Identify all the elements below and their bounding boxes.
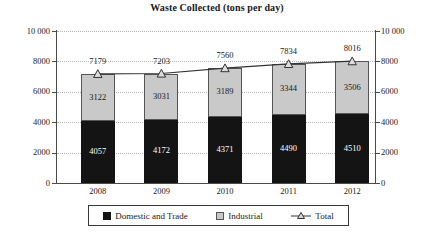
y-axis-tick-label-left: 2000 — [0, 148, 50, 157]
data-label-domestic-and-trade: 4057 — [81, 147, 115, 156]
data-label-domestic-and-trade: 4172 — [144, 146, 178, 155]
line-triangle-icon — [291, 212, 311, 220]
data-label-domestic-and-trade: 4510 — [335, 144, 369, 153]
axis-tick — [376, 61, 380, 62]
gridline — [57, 31, 375, 32]
y-axis-tick-label-right: 2000 — [381, 148, 398, 157]
legend-item-domestic-and-trade[interactable]: Domestic and Trade — [103, 211, 188, 221]
y-axis-tick-label-right: 6000 — [381, 87, 398, 96]
y-axis-tick-label-right: 8000 — [381, 57, 398, 66]
legend-item-total[interactable]: Total — [291, 211, 333, 221]
data-label-industrial: 3506 — [335, 83, 369, 92]
data-label-industrial: 3344 — [272, 84, 306, 93]
axis-bottom — [56, 183, 376, 184]
data-label-industrial: 3189 — [208, 87, 242, 96]
x-axis-tick-label: 2011 — [259, 187, 319, 196]
axis-tick — [376, 153, 380, 154]
data-label-domestic-and-trade: 4371 — [208, 145, 242, 154]
legend-label-total: Total — [315, 211, 333, 221]
y-axis-tick-label-left: 4000 — [0, 118, 50, 127]
x-axis-tick-label: 2009 — [131, 187, 191, 196]
black-square-icon — [103, 212, 111, 220]
chart-container: Waste Collected (tons per day) 002000200… — [0, 0, 434, 237]
axis-tick — [52, 153, 56, 154]
axis-tick — [376, 31, 380, 32]
data-label-industrial: 3122 — [81, 93, 115, 102]
x-axis-tick-label: 2008 — [68, 187, 128, 196]
x-axis-tick-label: 2012 — [322, 187, 382, 196]
data-label-industrial: 3031 — [144, 92, 178, 101]
axis-tick — [376, 183, 380, 184]
data-label-domestic-and-trade: 4490 — [272, 144, 306, 153]
data-label-total: 7834 — [266, 47, 312, 56]
axis-tick — [52, 122, 56, 123]
axis-left — [56, 30, 57, 184]
y-axis-tick-label-left: 6000 — [0, 87, 50, 96]
chart-title: Waste Collected (tons per day) — [0, 2, 434, 13]
y-axis-tick-label-right: 4000 — [381, 118, 398, 127]
axis-tick — [376, 92, 380, 93]
y-axis-tick-label-left: 0 — [0, 179, 50, 188]
legend-label-domestic-and-trade: Domestic and Trade — [115, 211, 188, 221]
data-label-total: 7179 — [75, 57, 121, 66]
legend-item-industrial[interactable]: Industrial — [216, 211, 263, 221]
y-axis-tick-label-left: 8000 — [0, 57, 50, 66]
axis-tick — [52, 92, 56, 93]
data-label-total: 7560 — [202, 51, 248, 60]
data-label-total: 7203 — [138, 57, 184, 66]
axis-tick — [52, 183, 56, 184]
axis-tick — [376, 122, 380, 123]
axis-tick — [52, 31, 56, 32]
chart-legend: Domestic and Trade Industrial Total — [88, 205, 349, 226]
legend-label-industrial: Industrial — [228, 211, 263, 221]
data-label-total: 8016 — [329, 44, 375, 53]
x-axis-tick-label: 2010 — [195, 187, 255, 196]
y-axis-tick-label-right: 10 000 — [381, 27, 404, 36]
axis-tick — [52, 61, 56, 62]
gray-square-icon — [216, 212, 224, 220]
y-axis-tick-label-left: 10 000 — [0, 27, 50, 36]
